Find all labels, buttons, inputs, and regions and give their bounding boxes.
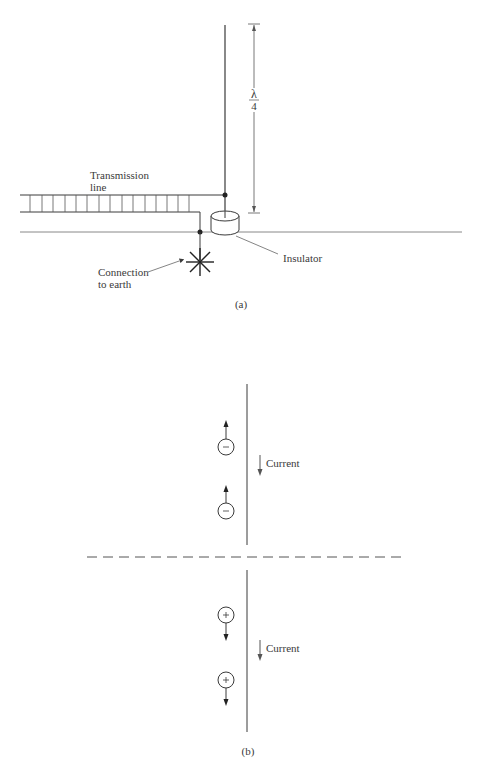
dimension-arrow-top — [252, 25, 256, 31]
caption-b: (b) — [242, 745, 255, 758]
negative-charge-1 — [218, 420, 234, 455]
earth-star-icon — [186, 248, 214, 276]
connection-label-2: to earth — [98, 278, 132, 290]
figure-a — [20, 24, 462, 276]
transmission-line-label: Transmission — [90, 169, 149, 181]
insulator-label: Insulator — [283, 252, 322, 264]
transmission-line-rungs — [30, 195, 189, 212]
current-label-top: Current — [266, 457, 300, 469]
positive-charge-1 — [218, 607, 234, 641]
current-label-bottom: Current — [266, 642, 300, 654]
transmission-line-bottom — [20, 212, 200, 232]
lambda-label: λ — [251, 87, 257, 101]
diagram-canvas: λ 4 Transmission line Insulator Connecti… — [0, 0, 479, 764]
current-arrow-top — [258, 455, 263, 476]
connection-label: Connection — [98, 266, 149, 278]
four-label: 4 — [251, 100, 257, 112]
caption-a: (a) — [235, 298, 248, 311]
junction-dot-antenna — [223, 193, 228, 198]
dimension-arrow-bottom — [252, 206, 256, 212]
negative-charge-2 — [218, 485, 234, 519]
transmission-line-label-2: line — [90, 181, 107, 193]
insulator-leader — [236, 236, 278, 254]
figure-b — [87, 384, 404, 732]
positive-charge-2 — [218, 672, 234, 706]
connection-leader — [148, 260, 182, 272]
current-arrow-bottom — [258, 640, 263, 661]
